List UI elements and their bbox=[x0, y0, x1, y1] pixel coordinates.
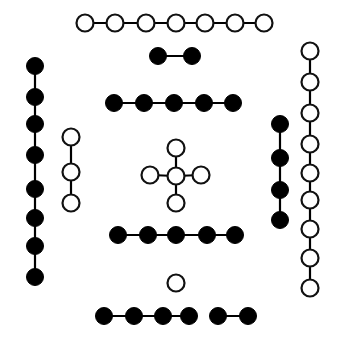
graph-node-filled bbox=[199, 227, 216, 244]
graph-node-open bbox=[193, 167, 210, 184]
graph-node-open bbox=[142, 167, 159, 184]
graph-node-open bbox=[302, 74, 319, 91]
graph-node-open bbox=[256, 15, 273, 32]
graph-node-filled bbox=[196, 95, 213, 112]
graph-node-filled bbox=[110, 227, 127, 244]
graph-node-filled bbox=[27, 181, 44, 198]
graph-node-open bbox=[138, 15, 155, 32]
graph-node-filled bbox=[272, 182, 289, 199]
component-top-open-path bbox=[77, 15, 273, 32]
graph-node-open bbox=[302, 105, 319, 122]
graph-node-open bbox=[302, 192, 319, 209]
graph-node-open bbox=[302, 136, 319, 153]
graph-node-filled bbox=[168, 227, 185, 244]
graph-node-filled bbox=[96, 308, 113, 325]
graph-node-filled bbox=[27, 210, 44, 227]
graph-node-open bbox=[168, 140, 185, 157]
graph-node-filled bbox=[227, 227, 244, 244]
graph-node-filled bbox=[155, 308, 172, 325]
graph-node-filled bbox=[272, 150, 289, 167]
graph-node-filled bbox=[27, 116, 44, 133]
graph-diagram-figure bbox=[0, 0, 340, 338]
graph-canvas bbox=[0, 0, 340, 338]
graph-node-filled bbox=[166, 95, 183, 112]
nodes-layer bbox=[27, 15, 319, 325]
graph-node-filled bbox=[272, 212, 289, 229]
graph-node-open bbox=[302, 250, 319, 267]
graph-node-open bbox=[63, 195, 80, 212]
graph-node-filled bbox=[136, 95, 153, 112]
graph-node-filled bbox=[225, 95, 242, 112]
graph-node-filled bbox=[181, 308, 198, 325]
graph-node-filled bbox=[272, 116, 289, 133]
graph-node-open bbox=[63, 129, 80, 146]
graph-node-open bbox=[302, 221, 319, 238]
graph-node-filled bbox=[184, 48, 201, 65]
graph-node-open bbox=[63, 164, 80, 181]
graph-node-open bbox=[168, 275, 185, 292]
graph-node-open bbox=[197, 15, 214, 32]
graph-node-filled bbox=[27, 269, 44, 286]
graph-node-filled bbox=[27, 147, 44, 164]
graph-node-filled bbox=[140, 227, 157, 244]
graph-node-filled bbox=[210, 308, 227, 325]
graph-node-filled bbox=[27, 238, 44, 255]
graph-node-open bbox=[77, 15, 94, 32]
component-right-open-column bbox=[302, 43, 319, 297]
graph-node-open bbox=[302, 43, 319, 60]
graph-node-filled bbox=[27, 89, 44, 106]
graph-node-filled bbox=[106, 95, 123, 112]
graph-node-open bbox=[302, 280, 319, 297]
graph-node-filled bbox=[240, 308, 257, 325]
graph-node-filled bbox=[126, 308, 143, 325]
component-left-open-column bbox=[63, 129, 80, 212]
graph-node-filled bbox=[27, 58, 44, 75]
component-isolated-open-node bbox=[168, 275, 185, 292]
graph-node-open bbox=[168, 195, 185, 212]
component-center-star bbox=[142, 140, 210, 212]
graph-node-open bbox=[107, 15, 124, 32]
graph-node-filled bbox=[150, 48, 167, 65]
graph-node-open bbox=[302, 165, 319, 182]
graph-node-open bbox=[168, 168, 185, 185]
graph-node-open bbox=[168, 15, 185, 32]
graph-node-open bbox=[227, 15, 244, 32]
